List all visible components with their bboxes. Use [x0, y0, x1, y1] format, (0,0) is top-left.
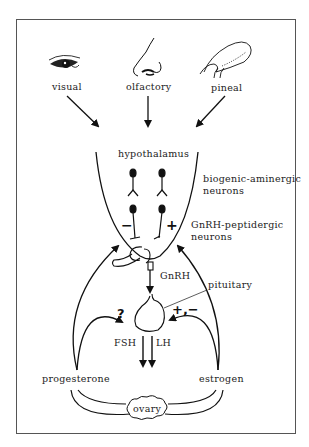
unknown-sign: ?: [117, 306, 125, 321]
neuroendocrine-diagram: visual olfactory pineal hypothalamus bio…: [0, 0, 309, 447]
biogenic-label-line2: neurons: [203, 185, 244, 196]
pineal-label: pineal: [211, 82, 242, 93]
pineal-gland-icon: [200, 42, 251, 78]
mixed-sign: +,−: [172, 302, 199, 317]
fsh-label: FSH: [114, 337, 136, 348]
visual-input-arrow: [67, 96, 98, 126]
pituitary-label: pituitary: [208, 279, 253, 290]
stimulate-sign: +: [166, 217, 178, 233]
gnrh-neurons-label-line1: GnRH-peptidergic: [191, 219, 283, 230]
hypothalamus-outline: [96, 152, 198, 259]
estrogen-to-pituitary-arrow: [170, 316, 218, 370]
gnrh-label: GnRH: [160, 270, 190, 281]
progesterone-label: progesterone: [42, 373, 110, 384]
inhibit-sign: −: [121, 217, 133, 233]
gnrh-neurons-label-line2: neurons: [191, 231, 232, 242]
visual-label: visual: [51, 81, 82, 92]
biogenic-aminergic-neurons: [128, 169, 167, 196]
biogenic-label-line1: biogenic-aminergic: [203, 173, 301, 184]
gnrh-peptidergic-neurons: [130, 205, 165, 239]
estrogen-label: estrogen: [199, 373, 244, 384]
olfactory-label: olfactory: [126, 81, 172, 92]
pineal-input-arrow: [197, 96, 225, 126]
pituitary-gland: [135, 294, 165, 331]
eye-icon: [49, 55, 80, 68]
ovary-label: ovary: [133, 403, 161, 414]
lh-label: LH: [156, 337, 171, 348]
nose-icon: [134, 38, 162, 76]
hypothalamus-label: hypothalamus: [118, 148, 189, 159]
